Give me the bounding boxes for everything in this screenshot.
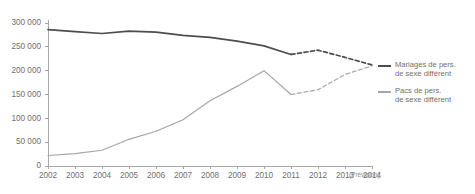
y-tick-label: 200 000 [11,66,41,75]
y-tick-label: 300 000 [11,18,41,27]
forecast-note: (Prévision) [349,171,380,179]
legend-label-pacs-line1: Pacs de pers. [395,86,451,95]
legend-label-mariages-line2: de sexe différent [395,69,456,78]
legend-label-pacs-line2: de sexe différent [395,95,451,104]
legend-label-pacs: Pacs de pers. de sexe différent [395,86,451,105]
series-line-pacs-forecast [291,66,372,95]
legend-label-mariages: Mariages de pers. de sexe différent [395,60,456,79]
series-line-pacs-actual [48,71,291,156]
series-line-mariages-actual [48,30,291,55]
y-axis-tick-labels: 050 000100 000150 000200 000250 000300 0… [11,18,41,170]
x-tick-label: 2005 [120,171,139,180]
series-group [48,30,372,156]
x-tick-label: 2002 [39,171,58,180]
x-tick-label: 2008 [201,171,220,180]
x-tick-label: 2012 [309,171,328,180]
x-tick-label: 2006 [147,171,166,180]
x-axis-tick-labels: 2002200320042005200620072008200920102011… [39,171,382,180]
legend-item-mariages: Mariages de pers. de sexe différent [378,60,475,79]
x-tick-label: 2003 [66,171,85,180]
y-tick-label: 100 000 [11,114,41,123]
legend-label-mariages-line1: Mariages de pers. [395,60,456,69]
legend-swatch-pacs-icon [378,91,391,93]
x-tick-label: 2010 [255,171,274,180]
x-tick-label: 2009 [228,171,247,180]
legend-swatch-mariages-icon [378,65,391,67]
x-tick-label: 2004 [93,171,112,180]
y-tick-label: 50 000 [16,137,41,146]
y-tick-label: 0 [36,161,41,170]
y-tick-label: 250 000 [11,42,41,51]
x-tick-label: 2011 [282,171,300,180]
series-line-mariages-forecast [291,50,372,65]
legend-item-pacs: Pacs de pers. de sexe différent [378,86,475,105]
chart-container: 050 000100 000150 000200 000250 000300 0… [0,0,475,194]
y-tick-label: 150 000 [11,90,41,99]
chart-legend: Mariages de pers. de sexe différent Pacs… [378,60,475,112]
x-tick-label: 2007 [174,171,193,180]
